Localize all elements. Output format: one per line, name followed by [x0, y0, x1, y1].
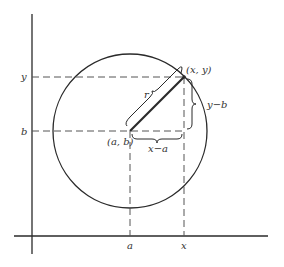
- label-y-tick: y: [20, 71, 27, 82]
- radius-brace: [126, 67, 182, 126]
- circle-equation-diagram: (x, y) (a, b) r y−b x−a y b a x: [0, 0, 284, 267]
- radius-line: [130, 77, 184, 131]
- vertical-brace: [187, 79, 196, 129]
- label-x-minus-a: x−a: [148, 143, 168, 154]
- label-a-tick: a: [127, 240, 133, 251]
- horizontal-brace: [132, 134, 182, 143]
- label-x-tick: x: [181, 240, 187, 251]
- point-xy-marker: [182, 75, 186, 79]
- label-center-ab: (a, b): [107, 136, 134, 147]
- label-b-tick: b: [21, 126, 27, 137]
- label-point-xy: (x, y): [186, 64, 212, 75]
- label-y-minus-b: y−b: [206, 99, 227, 110]
